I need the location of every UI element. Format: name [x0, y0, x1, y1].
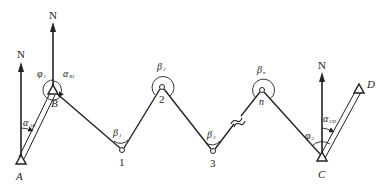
arc-beta-1 [114, 140, 128, 143]
arc-alpha-CD [322, 128, 332, 131]
label-beta-n: βn [256, 64, 266, 75]
label-alpha-CD: αCD [323, 113, 337, 124]
angle-arcs [21, 76, 332, 146]
arc-alpha-AB [21, 128, 31, 130]
label-phi-1: φ1 [37, 68, 46, 79]
station-3: 3 [210, 149, 216, 170]
north-arrow-B: N [49, 9, 57, 86]
north-arrow-C: N [318, 59, 326, 153]
station-label-n: n [259, 96, 264, 107]
north-label-A: N [17, 48, 25, 60]
leg-3-break [215, 124, 234, 149]
angle-labels: φ1 αB1 αAB β1 β2 β3 βn φ2 αCD [23, 61, 337, 141]
traverse-diagram: N N N [0, 0, 384, 186]
station-D: D [354, 78, 375, 93]
leg-n-C [264, 92, 320, 154]
label-alpha-B1: αB1 [63, 68, 75, 79]
label-alpha-AB: αAB [23, 117, 35, 128]
label-beta-1: β1 [112, 127, 121, 138]
station-label-B: B [51, 97, 58, 109]
leg-1-2 [124, 89, 160, 148]
north-arrow-A: N [17, 48, 25, 156]
leg-2-3 [164, 89, 211, 149]
traverse-legs [55, 89, 320, 154]
point-circle-icon [211, 149, 216, 154]
label-beta-2: β2 [156, 61, 166, 72]
leg-break-n [241, 92, 260, 116]
north-arrowhead-icon [319, 72, 325, 82]
triangle-icon [16, 155, 26, 164]
arc-phi-2 [312, 142, 330, 146]
station-2: 2 [159, 85, 165, 106]
station-1: 1 [119, 148, 125, 169]
station-n: n [259, 88, 265, 108]
station-label-D: D [366, 78, 375, 90]
station-label-A: A [15, 170, 23, 182]
point-circle-icon [260, 88, 265, 93]
north-label-C: N [318, 59, 326, 71]
point-circle-icon [160, 85, 165, 90]
north-arrowhead-icon [50, 22, 56, 32]
triangle-icon [48, 85, 58, 94]
north-arrowhead-icon [18, 62, 24, 72]
point-circle-icon [120, 148, 125, 153]
known-side-CD [320, 90, 361, 158]
label-phi-2: φ2 [305, 130, 315, 141]
station-label-C: C [318, 168, 326, 180]
station-label-1: 1 [119, 156, 125, 168]
north-label-B: N [49, 9, 57, 21]
station-label-3: 3 [210, 157, 216, 169]
station-label-2: 2 [159, 93, 165, 105]
label-beta-3: β3 [206, 129, 216, 140]
triangle-icon [354, 84, 364, 93]
leg-B-1 [55, 92, 120, 148]
